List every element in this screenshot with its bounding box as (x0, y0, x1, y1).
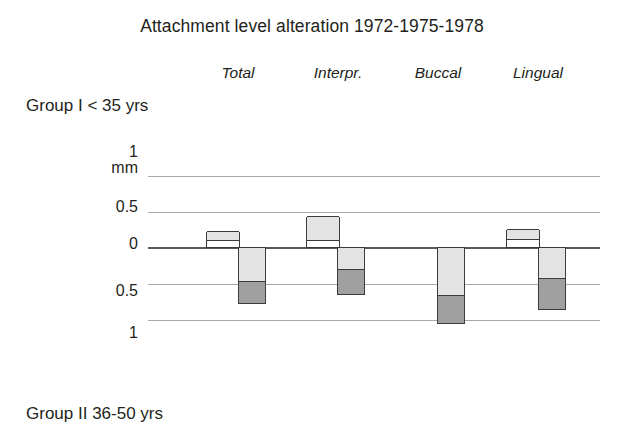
ytick-label-zero: 0 (78, 236, 138, 252)
bar-buccal-loss-seg-light (438, 248, 464, 295)
bar-interpr-loss[interactable] (337, 247, 365, 295)
gridline-neg-1 (148, 320, 600, 321)
bar-lingual-loss-seg-dark (539, 278, 565, 309)
gridline-pos-1 (148, 176, 600, 177)
bar-total-gain[interactable] (206, 232, 240, 248)
bar-total-gain-seg-upper (207, 231, 239, 240)
ytick-label-pos-0-5: 0.5 (78, 199, 138, 215)
bar-interpr-gain[interactable] (306, 217, 340, 248)
ytick-label-pos-1: 1 mm (78, 144, 138, 177)
bar-interpr-gain-seg-lower (307, 240, 339, 247)
bar-lingual-loss[interactable] (538, 247, 566, 310)
next-group-caption: Group II 36-50 yrs (26, 404, 163, 424)
bar-buccal-loss-seg-dark (438, 295, 464, 323)
ytick-label-neg-1: 1 (78, 325, 138, 341)
bar-interpr-loss-seg-dark (338, 269, 364, 294)
bar-total-loss[interactable] (238, 247, 266, 304)
bar-total-gain-seg-lower (207, 240, 239, 247)
bar-lingual-gain-seg-upper (507, 229, 539, 239)
bar-interpr-gain-seg-upper (307, 216, 339, 240)
bar-total-loss-seg-dark (239, 281, 265, 303)
gridline-neg-0-5 (148, 284, 600, 285)
gridline-pos-0-5 (148, 212, 600, 213)
ytick-value-pos-1: 1 (129, 143, 138, 160)
ytick-label-neg-0-5: 0.5 (78, 283, 138, 299)
bar-lingual-gain[interactable] (506, 230, 540, 248)
ytick-unit-mm: mm (78, 160, 138, 177)
bar-buccal-loss[interactable] (437, 247, 465, 324)
bar-total-loss-seg-light (239, 248, 265, 281)
bar-interpr-loss-seg-light (338, 248, 364, 269)
bar-lingual-gain-seg-lower (507, 239, 539, 247)
bar-lingual-loss-seg-light (539, 248, 565, 278)
